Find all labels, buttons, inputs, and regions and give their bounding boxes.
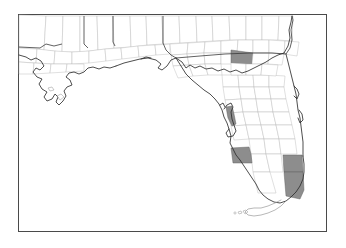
- county-layer-gulf-states: [19, 15, 170, 74]
- map-canvas: [0, 0, 346, 248]
- county-lee-highlight: [231, 147, 252, 163]
- county-layer-georgia: [162, 16, 299, 56]
- map-figure: [0, 0, 346, 248]
- county-broward-highlight: [283, 155, 303, 172]
- county-miami-dade-highlight: [284, 172, 304, 199]
